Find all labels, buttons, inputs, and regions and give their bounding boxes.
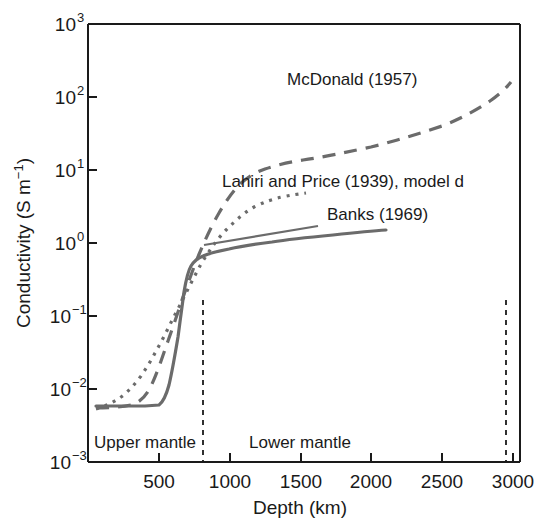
- y-tick-label-exponent: 1: [77, 156, 84, 171]
- y-tick-label-mantissa: 10: [55, 160, 76, 181]
- y-axis-title-superscript: −1: [11, 164, 26, 179]
- y-tick-label-exponent: 3: [77, 10, 84, 25]
- x-tick-labels: 500 1000 1500 2000 2500 3000: [143, 471, 534, 492]
- annotation-mcdonald: McDonald (1957): [287, 70, 417, 89]
- x-axis-title: Depth (km): [253, 497, 347, 518]
- y-tick-label-exponent: −1: [72, 302, 87, 317]
- x-tick-label: 3000: [492, 471, 534, 492]
- chart-canvas: 10 3 10 2 10 1 10 0 10 −1 10 −2 10 −3: [0, 0, 554, 522]
- y-tick-label-exponent: 2: [77, 83, 84, 98]
- series-curve-banks: [96, 230, 386, 406]
- y-tick-labels: 10 3 10 2 10 1 10 0 10 −1 10 −2 10 −3: [50, 10, 87, 473]
- series-curve-lahiri-price: [96, 193, 306, 409]
- x-tick-label: 1500: [280, 471, 322, 492]
- y-tick-label-mantissa: 10: [55, 87, 76, 108]
- y-tick-label-mantissa: 10: [55, 233, 76, 254]
- region-label-upper-mantle: Upper mantle: [94, 433, 196, 452]
- y-axis-title-base: Conductivity (S m: [13, 179, 34, 328]
- y-tick-label-exponent: 0: [77, 229, 84, 244]
- y-tick-label-exponent: −3: [72, 448, 87, 463]
- svg-text:Conductivity (S m−1): Conductivity (S m−1): [11, 158, 34, 328]
- annotation-lahiri-price: Lahiri and Price (1939), model d: [222, 172, 464, 191]
- x-tick-label: 1000: [209, 471, 251, 492]
- annotation-banks: Banks (1969): [327, 205, 428, 224]
- series-curve-mcdonald: [96, 82, 511, 408]
- x-tick-label: 2000: [350, 471, 392, 492]
- y-tick-label-mantissa: 10: [50, 379, 71, 400]
- y-tick-marks: [88, 24, 97, 462]
- x-tick-label: 500: [143, 471, 175, 492]
- plot-frame: [88, 24, 520, 462]
- y-tick-label-exponent: −2: [72, 375, 87, 390]
- x-tick-label: 2500: [421, 471, 463, 492]
- y-tick-label-mantissa: 10: [50, 306, 71, 327]
- x-tick-marks: [159, 453, 513, 462]
- y-axis-title: Conductivity (S m−1): [11, 158, 34, 328]
- conductivity-depth-chart: 10 3 10 2 10 1 10 0 10 −1 10 −2 10 −3: [0, 0, 554, 522]
- y-tick-label-mantissa: 10: [50, 452, 71, 473]
- y-tick-label-mantissa: 10: [55, 14, 76, 35]
- y-axis-title-tail: ): [13, 158, 34, 164]
- region-label-lower-mantle: Lower mantle: [249, 433, 351, 452]
